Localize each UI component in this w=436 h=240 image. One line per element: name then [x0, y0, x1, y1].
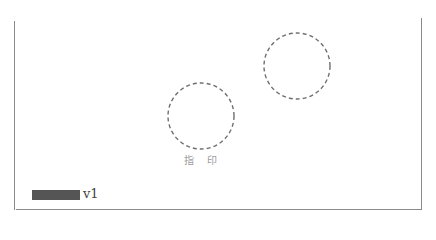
fingerprint-label: 指 印	[184, 152, 222, 167]
version-label: v1	[83, 186, 99, 201]
fingerprint-seal-circle	[168, 83, 234, 149]
seal-circle-right	[264, 33, 330, 99]
redaction-bar	[32, 190, 80, 200]
